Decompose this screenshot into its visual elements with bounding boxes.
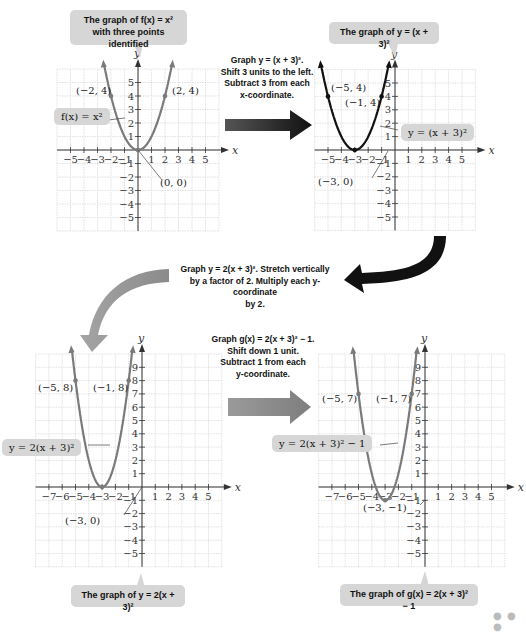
step1-line2: Shift 3 units to the left. <box>212 67 322 79</box>
svg-text:x: x <box>235 481 242 494</box>
step1-line1: Graph y = (x + 3)². <box>212 55 322 67</box>
svg-text:3: 3 <box>462 491 468 502</box>
svg-text:2: 2 <box>448 491 454 502</box>
graph3-title: The graph of y = 2(x + 3)² <box>78 589 178 613</box>
plotted-point <box>353 148 358 153</box>
svg-text:5: 5 <box>202 154 208 165</box>
svg-text:1: 1 <box>435 491 441 502</box>
graph1-point-label-left: (−2, 4) <box>76 85 111 96</box>
svg-text:3: 3 <box>385 104 391 115</box>
svg-text:6: 6 <box>415 402 421 413</box>
svg-text:x: x <box>232 144 239 157</box>
step2-instructions: Graph y = 2(x + 3)². Stretch vertically … <box>170 264 340 310</box>
plotted-point <box>326 94 331 99</box>
graph4-point-label-vertex: (−3, −1) <box>363 502 407 513</box>
step1-line4: x-coordinate. <box>212 90 322 102</box>
svg-text:−4: −4 <box>376 198 391 209</box>
more-dots-icon[interactable]: ● ● ● <box>493 610 526 632</box>
svg-text:−4: −4 <box>406 535 421 546</box>
svg-text:−5: −5 <box>376 212 391 223</box>
graph4-title-callout: The graph of g(x) = 2(x + 3)² − 1 <box>340 584 478 606</box>
svg-text:5: 5 <box>132 415 138 426</box>
svg-text:−1: −1 <box>406 495 421 506</box>
svg-text:2: 2 <box>132 455 138 466</box>
step3-instructions: Graph g(x) = 2(x + 3)² − 1. Shift down 1… <box>207 334 319 380</box>
step3-line3: Subtract 1 from each <box>207 357 319 369</box>
svg-text:3: 3 <box>128 104 134 115</box>
graph1-equation-label: f(x) = x² <box>54 108 110 125</box>
svg-text:8: 8 <box>132 375 138 386</box>
svg-text:−1: −1 <box>119 158 134 169</box>
graph3-equation-label: y = 2(x + 3)² <box>2 439 81 456</box>
svg-text:4: 4 <box>415 428 421 439</box>
graph2-point-label-left: (−5, 4) <box>331 82 366 93</box>
svg-text:−3: −3 <box>376 185 391 196</box>
svg-text:−5: −5 <box>406 548 421 559</box>
graph2-equation-label: y = (x + 3)² <box>401 124 474 141</box>
graph2-title-callout: The graph of y = (x + 3)² <box>329 22 439 44</box>
svg-text:−2: −2 <box>123 508 138 519</box>
svg-text:−2: −2 <box>376 171 391 182</box>
svg-text:4: 4 <box>445 154 451 165</box>
svg-text:4: 4 <box>385 91 391 102</box>
step1-line3: Subtract 3 from each <box>212 78 322 90</box>
svg-text:5: 5 <box>415 415 421 426</box>
svg-text:9: 9 <box>132 362 138 373</box>
svg-text:7: 7 <box>132 388 138 399</box>
graph2-title: The graph of y = (x + 3)² <box>336 26 432 50</box>
svg-text:1: 1 <box>128 131 134 142</box>
svg-text:8: 8 <box>415 375 421 386</box>
graph1-title-line1: The graph of f(x) = x² <box>77 14 180 26</box>
svg-text:y: y <box>137 332 145 345</box>
plotted-point <box>73 378 78 383</box>
svg-text:3: 3 <box>415 442 421 453</box>
svg-text:1: 1 <box>148 154 154 165</box>
step2-line1: Graph y = 2(x + 3)². Stretch vertically <box>170 264 340 276</box>
svg-text:2: 2 <box>128 118 134 129</box>
graph4-title: The graph of g(x) = 2(x + 3)² − 1 <box>347 588 471 612</box>
graph1-title-line2: with three points identified <box>77 26 180 50</box>
svg-text:−3: −3 <box>119 185 134 196</box>
svg-text:2: 2 <box>419 154 425 165</box>
svg-text:−3: −3 <box>123 521 138 532</box>
step3-line2: Shift down 1 unit. <box>207 346 319 358</box>
svg-text:x: x <box>518 481 525 494</box>
graph4-equation-label: y = 2(x + 3)² − 1 <box>272 435 372 452</box>
graph2-point-label-vertex: (−3, 0) <box>318 176 353 187</box>
svg-text:5: 5 <box>128 77 134 88</box>
graph1-point-label-right: (2, 4) <box>172 85 199 96</box>
graph3-point-label-vertex: (−3, 0) <box>65 515 100 526</box>
svg-text:2: 2 <box>165 491 171 502</box>
svg-text:1: 1 <box>132 468 138 479</box>
svg-text:−4: −4 <box>123 535 138 546</box>
svg-text:4: 4 <box>192 491 198 502</box>
arrow-right-step1 <box>225 110 312 140</box>
graph1-point-label-vertex: (0, 0) <box>160 177 187 188</box>
svg-text:−2: −2 <box>406 508 421 519</box>
svg-text:4: 4 <box>128 91 134 102</box>
step1-instructions: Graph y = (x + 3)². Shift 3 units to the… <box>212 55 322 101</box>
step3-line1: Graph g(x) = 2(x + 3)² − 1. <box>207 334 319 346</box>
arrow-right-step4 <box>228 390 311 424</box>
svg-text:5: 5 <box>459 154 465 165</box>
svg-text:4: 4 <box>132 428 138 439</box>
svg-text:5: 5 <box>205 491 211 502</box>
graph3-title-callout: The graph of y = 2(x + 3)² <box>71 585 185 607</box>
svg-text:5: 5 <box>488 491 494 502</box>
svg-text:3: 3 <box>179 491 185 502</box>
svg-text:1: 1 <box>152 491 158 502</box>
svg-text:6: 6 <box>132 402 138 413</box>
svg-text:−2: −2 <box>119 172 134 183</box>
arrow-curved-step2 <box>344 236 446 293</box>
graph1-title-callout: The graph of f(x) = x² with three points… <box>70 10 187 45</box>
svg-text:2: 2 <box>415 455 421 466</box>
svg-text:1: 1 <box>385 131 391 142</box>
svg-text:3: 3 <box>432 154 438 165</box>
svg-text:3: 3 <box>132 442 138 453</box>
svg-text:3: 3 <box>175 154 181 165</box>
svg-text:−5: −5 <box>119 212 134 223</box>
step2-line2: by a factor of 2. Multiply each y-coordi… <box>170 276 340 299</box>
step2-line3: by 2. <box>170 299 340 311</box>
svg-text:−5: −5 <box>123 548 138 559</box>
graph2-point-label-right: (−1, 4) <box>345 97 380 108</box>
